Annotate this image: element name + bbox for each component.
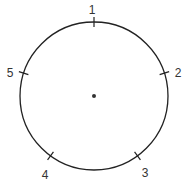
circle-diagram: 12345 — [0, 0, 187, 181]
point-label-1: 1 — [89, 3, 96, 17]
point-label-2: 2 — [175, 66, 182, 80]
point-label-4: 4 — [42, 168, 49, 181]
center-dot — [92, 94, 96, 98]
point-label-5: 5 — [7, 66, 14, 80]
point-labels: 12345 — [7, 3, 182, 181]
tick-mark-3 — [135, 152, 141, 160]
point-label-3: 3 — [142, 166, 149, 180]
tick-marks — [19, 17, 169, 160]
tick-mark-4 — [48, 152, 54, 160]
